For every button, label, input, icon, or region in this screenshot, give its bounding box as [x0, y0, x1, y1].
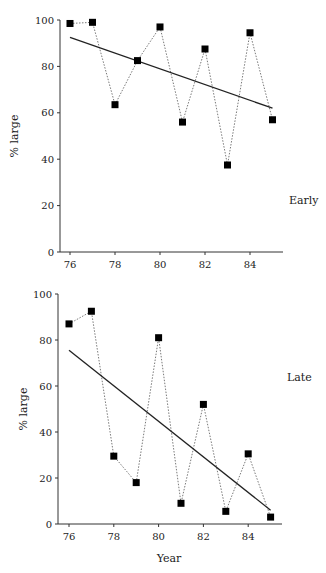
data-point-marker: [200, 401, 207, 408]
data-point-marker: [155, 334, 162, 341]
y-tick-label: 40: [39, 427, 52, 438]
observed-series-line: [70, 22, 273, 165]
data-point-marker: [222, 508, 229, 515]
x-tick-label: 84: [242, 531, 255, 542]
y-axis-label: % large: [17, 388, 30, 431]
data-point-marker: [247, 29, 254, 36]
y-tick-label: 100: [33, 289, 52, 300]
data-point-marker: [134, 57, 141, 64]
x-tick-label: 80: [154, 259, 167, 270]
y-tick-label: 60: [39, 381, 52, 392]
x-tick-label: 78: [107, 531, 120, 542]
panel-label: Early: [289, 194, 319, 207]
data-point-marker: [112, 101, 119, 108]
data-point-marker: [179, 119, 186, 126]
y-tick-label: 80: [39, 335, 52, 346]
data-point-marker: [245, 450, 252, 457]
y-tick-label: 40: [41, 154, 54, 165]
data-point-marker: [202, 46, 209, 53]
trend-line: [69, 350, 271, 510]
late-panel: 0204060801007678808284% largeYearLate: [17, 289, 312, 566]
data-point-marker: [267, 514, 274, 521]
data-point-marker: [88, 308, 95, 315]
data-point-marker: [66, 320, 73, 327]
data-point-marker: [67, 20, 74, 27]
x-tick-label: 78: [109, 259, 122, 270]
y-tick-label: 100: [35, 15, 54, 26]
chart-canvas: 0204060801007678808284% largeEarly 02040…: [0, 0, 326, 573]
x-tick-label: 84: [244, 259, 257, 270]
y-tick-label: 20: [39, 473, 52, 484]
y-tick-label: 80: [41, 61, 54, 72]
data-point-marker: [224, 162, 231, 169]
data-point-marker: [133, 479, 140, 486]
x-tick-label: 80: [152, 531, 165, 542]
data-point-marker: [269, 116, 276, 123]
early-panel: 0204060801007678808284% largeEarly: [8, 15, 319, 271]
x-tick-label: 76: [63, 531, 76, 542]
panel-label: Late: [287, 371, 312, 384]
trend-line: [70, 37, 273, 108]
x-axis-label: Year: [156, 552, 182, 565]
x-tick-label: 82: [199, 259, 212, 270]
y-tick-label: 60: [41, 107, 54, 118]
x-tick-label: 76: [64, 259, 77, 270]
y-tick-label: 0: [46, 519, 52, 530]
data-point-marker: [89, 19, 96, 26]
y-tick-label: 20: [41, 200, 54, 211]
data-point-marker: [178, 500, 185, 507]
y-tick-label: 0: [48, 247, 54, 258]
x-tick-label: 82: [197, 531, 210, 542]
data-point-marker: [110, 453, 117, 460]
data-point-marker: [157, 23, 164, 30]
y-axis-label: % large: [8, 115, 21, 158]
